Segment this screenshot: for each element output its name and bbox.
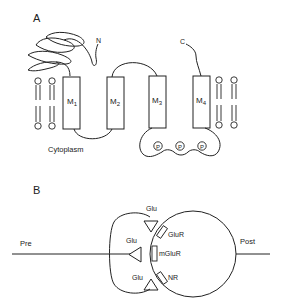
n-terminus-label: N <box>96 37 101 44</box>
panel-a-label: A <box>33 12 41 24</box>
glu-release-middle: Glu <box>126 237 141 262</box>
lipid-bilayer-left <box>35 78 55 129</box>
mglur-receptor: mGluR <box>152 246 181 261</box>
presynaptic-terminal <box>110 213 151 293</box>
svg-text:M3: M3 <box>152 96 163 106</box>
svg-text:mGluR: mGluR <box>159 250 181 257</box>
panel-b-label: B <box>33 184 40 196</box>
n-terminal-domain <box>28 32 98 76</box>
glur-receptor: GluR <box>157 226 184 239</box>
receptor-diagram: A N <box>0 0 281 304</box>
phosphorylation-sites: P P P <box>154 142 206 150</box>
svg-text:P: P <box>200 144 204 150</box>
svg-text:P: P <box>156 144 160 150</box>
svg-text:M1: M1 <box>67 97 78 107</box>
svg-text:M4: M4 <box>196 96 207 106</box>
panel-b: B Pre Post Glu Glu Glu GluR mGlu <box>12 184 270 297</box>
lipid-bilayer-right <box>216 77 237 128</box>
phospho-site-1: P <box>154 142 162 150</box>
phospho-site-3: P <box>198 142 206 150</box>
panel-a: A N <box>28 12 237 157</box>
post-label: Post <box>240 237 256 246</box>
svg-text:Glu: Glu <box>146 205 157 212</box>
c-terminus-label: C <box>180 38 185 45</box>
transmembrane-segment-m2: M2 <box>107 77 124 129</box>
transmembrane-segment-m3: M3 <box>149 76 166 128</box>
svg-text:NR: NR <box>168 274 178 281</box>
svg-text:M2: M2 <box>110 97 121 107</box>
pre-label: Pre <box>20 239 32 248</box>
svg-text:GluR: GluR <box>168 231 184 238</box>
svg-text:Glu: Glu <box>126 237 137 244</box>
svg-text:P: P <box>178 144 182 150</box>
glu-release-top: Glu <box>144 205 158 232</box>
glu-release-bottom: Glu <box>132 274 158 290</box>
cytoplasm-label: Cytoplasm <box>48 145 83 154</box>
transmembrane-segment-m4: M4 <box>193 76 210 128</box>
transmembrane-segment-m1: M1 <box>63 77 80 129</box>
nr-receptor: NR <box>157 272 179 285</box>
svg-text:Glu: Glu <box>132 274 143 281</box>
phospho-site-2: P <box>176 142 184 150</box>
